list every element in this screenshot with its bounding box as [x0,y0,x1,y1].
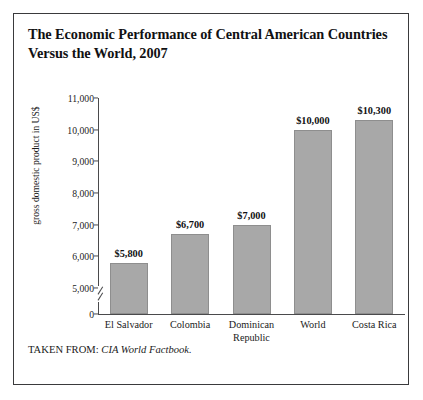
y-axis-tick-mark [94,192,98,193]
bar [110,263,148,314]
y-axis-tick-mark [94,256,98,257]
y-axis-tick-label: 5,000 [36,283,94,294]
bar-series: $5,800$6,700$7,000$10,000$10,300 [98,76,405,314]
bar [233,225,271,314]
y-axis-tick-label: 7,000 [36,219,94,230]
source-prefix: TAKEN FROM: [28,344,99,355]
y-axis-tick-label: 6,000 [36,251,94,262]
x-axis-category-label: World [282,318,343,331]
bar-slot: $6,700 [171,76,209,314]
chart-plot-area: gross domestic product in US$ 05,0006,00… [14,76,410,338]
y-axis-tick-label: 9,000 [36,156,94,167]
y-axis-tick-mark [94,161,98,162]
x-axis-category-label: Costa Rica [344,318,405,331]
x-axis-category-label: Colombia [159,318,220,331]
y-axis-tick-label: 8,000 [36,188,94,199]
y-axis-tick-mark [94,97,98,98]
x-axis-category-label: Dominican Republic [221,318,282,344]
y-axis-tick-labels: 05,0006,0007,0008,0009,00010,00011,000 [32,76,94,338]
bar-slot: $10,000 [294,76,332,314]
figure-frame: The Economic Performance of Central Amer… [13,13,409,385]
y-axis-tick-label: 11,000 [36,93,94,104]
y-axis-tick-mark [94,129,98,130]
bar-value-label: $10,300 [358,105,391,116]
bar-value-label: $10,000 [296,115,329,126]
y-axis-tick-mark [94,287,98,288]
y-axis-tick-label: 0 [36,309,94,320]
bar [355,120,393,314]
bar [294,130,332,314]
bar-value-label: $5,800 [115,248,143,259]
y-axis-tick-mark [94,224,98,225]
y-axis-tick-mark [94,313,98,314]
bar-slot: $5,800 [110,76,148,314]
y-axis-tick-label: 10,000 [36,124,94,135]
bar-slot: $7,000 [233,76,271,314]
figure-title: The Economic Performance of Central Amer… [28,25,396,63]
bar [171,234,209,314]
bar-slot: $10,300 [355,76,393,314]
x-axis-category-label: El Salvador [98,318,159,331]
source-work-title: CIA World Factbook. [101,344,191,355]
bar-value-label: $7,000 [237,210,265,221]
bar-value-label: $6,700 [176,219,204,230]
source-attribution: TAKEN FROM: CIA World Factbook. [28,344,192,355]
